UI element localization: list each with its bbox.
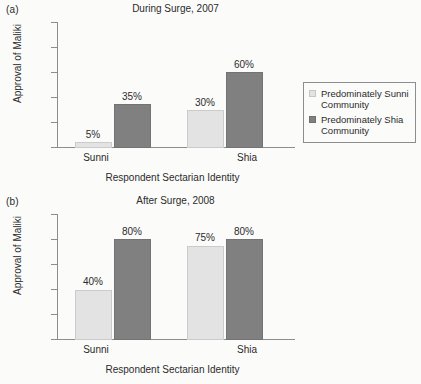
bar-a-sunni-sunnicommunity — [75, 142, 112, 148]
y-axis-title-b: Approval of Maliki — [12, 201, 23, 311]
bar-value-a-4: 60% — [219, 59, 269, 70]
bar-a-shia-sunnicommunity — [187, 110, 224, 148]
bar-value-a-1: 5% — [68, 129, 118, 140]
legend-label-a-sunni: Predominately Sunni Community — [321, 88, 409, 110]
bar-a-shia-shiacommunity — [226, 72, 263, 148]
bar-b-shia-shiacommunity — [226, 239, 263, 340]
bar-value-a-3: 30% — [180, 97, 230, 108]
x-category-label-a-sunni: Sunni — [56, 152, 136, 163]
bar-b-shia-sunnicommunity — [187, 246, 224, 341]
bar-value-b-2: 80% — [107, 226, 157, 237]
legend-swatch-icon-sunni-a — [309, 90, 316, 97]
bars-container-b: 40% 80% 75% 80% — [57, 214, 288, 340]
x-axis-title-a: Respondent Sectarian Identity — [57, 172, 288, 183]
bar-b-sunni-shiacommunity — [114, 239, 151, 340]
bar-value-b-4: 80% — [219, 226, 269, 237]
x-category-label-b-sunni: Sunni — [56, 344, 136, 355]
legend-label-a-shia: Predominately Shia Community — [321, 114, 409, 136]
bars-container-a: 5% 35% 30% 60% — [57, 22, 288, 148]
legend-item-a-sunni: Predominately Sunni Community — [309, 88, 409, 110]
legend-item-a-shia: Predominately Shia Community — [309, 114, 409, 136]
legend-swatch-icon-shia-a — [309, 116, 316, 123]
x-axis-title-b: Respondent Sectarian Identity — [57, 364, 288, 375]
legend-a: Predominately Sunni Community Predominat… — [303, 82, 416, 143]
plot-area-b: Approval of Maliki 100% 80% 60% 40% 20% … — [0, 192, 300, 384]
bar-value-b-1: 40% — [68, 276, 118, 287]
y-axis-title-a: Approval of Maliki — [12, 9, 23, 119]
bar-value-a-2: 35% — [107, 91, 157, 102]
x-category-label-b-shia: Shia — [207, 344, 287, 355]
bar-b-sunni-sunnicommunity — [75, 290, 112, 340]
x-category-label-a-shia: Shia — [207, 152, 287, 163]
bar-a-sunni-shiacommunity — [114, 104, 151, 148]
chart-panel-b: (b) After Surge, 2008 Approval of Maliki… — [0, 192, 421, 384]
plot-area-a: Approval of Maliki 100% 80% 60% 40% 20% … — [0, 0, 300, 192]
chart-panel-a: (a) During Surge, 2007 Approval of Malik… — [0, 0, 421, 192]
